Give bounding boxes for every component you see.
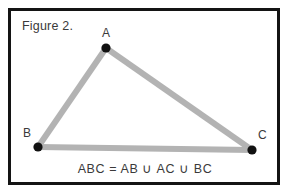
vertex-dot-a — [101, 43, 110, 52]
edge-ac — [106, 48, 252, 150]
figure-caption: Figure 2. — [22, 19, 73, 33]
vertex-label-b: B — [23, 126, 31, 140]
vertex-label-a: A — [102, 26, 110, 40]
set-union-equation: ABC = AB ∪ AC ∪ BC — [0, 161, 290, 176]
vertex-dot-b — [33, 142, 42, 151]
edge-ab — [38, 48, 106, 147]
edge-bc — [38, 147, 252, 150]
vertex-label-c: C — [258, 128, 267, 142]
vertex-dot-c — [247, 145, 256, 154]
triangle-edges — [38, 48, 252, 150]
figure-diagram: Figure 2. A B C ABC = AB ∪ AC ∪ BC — [0, 0, 290, 195]
triangle-vertices — [33, 43, 256, 154]
